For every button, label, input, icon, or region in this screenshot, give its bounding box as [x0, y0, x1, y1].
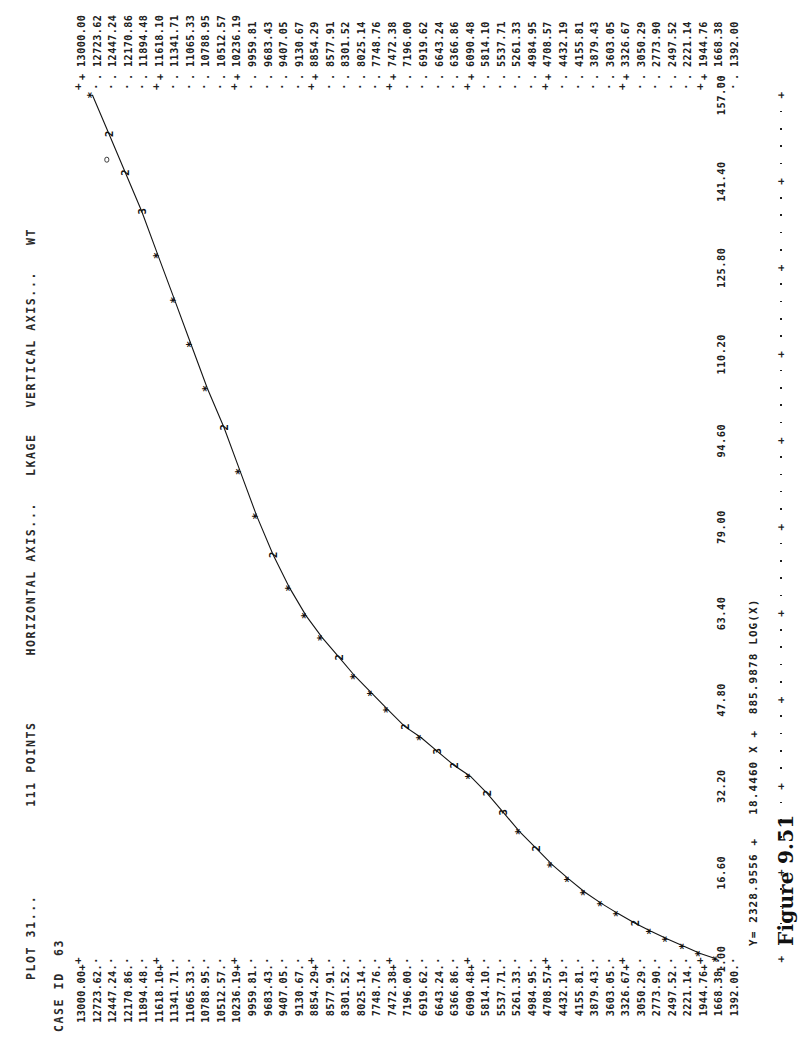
data-point-marker: *	[251, 512, 262, 519]
x-axis-major-tick: +	[775, 782, 786, 791]
y-tick-label: 1668.38.	[711, 964, 727, 1038]
y-tick-label: . 6919.62	[416, 2, 432, 80]
y-tick-label: + 1944.76	[696, 2, 712, 80]
y-tick-label: . 5814.10	[478, 2, 494, 80]
data-point-marker: *	[383, 706, 394, 713]
data-point-marker: *	[580, 889, 591, 896]
y-tick-label: . 10788.95	[198, 2, 214, 80]
data-point-marker: *	[465, 773, 476, 780]
y-tick-label: + 6090.48	[463, 2, 479, 80]
y-tick-label: + 8854.29	[307, 2, 323, 80]
y-tick-label: . 11894.48	[136, 2, 152, 80]
x-axis-major-tick: +	[775, 523, 786, 532]
y-tick-label: 9130.67.	[292, 964, 308, 1038]
y-tick-label: + 3326.67	[618, 2, 634, 80]
y-tick-label: 7748.76.	[369, 964, 385, 1038]
y-tick-label: . 7748.76	[369, 2, 385, 80]
y-tick-label: 10512.57.	[214, 964, 230, 1038]
data-point-marker: *	[235, 468, 246, 475]
x-axis-minor-tick	[780, 508, 782, 510]
y-tick-label: 4984.95.	[525, 964, 541, 1038]
y-tick-label: . 6366.86	[447, 2, 463, 80]
x-tick-label: 94.60	[716, 424, 726, 458]
y-tick-label: . 6643.24	[432, 2, 448, 80]
x-axis-minor-tick	[780, 750, 782, 752]
x-axis-minor-tick	[780, 404, 782, 406]
y-tick-label: 10236.19+	[229, 964, 245, 1038]
data-point-marker: *	[564, 876, 575, 883]
x-tick-label: 63.40	[716, 597, 726, 631]
data-point-marker: 2	[104, 131, 115, 138]
data-point-marker: *	[169, 296, 180, 303]
x-tick-label: 79.00	[716, 510, 726, 544]
x-axis-minor-tick	[780, 318, 782, 320]
y-tick-label: 7196.00.	[400, 964, 416, 1038]
y-tick-label: . 9130.67	[292, 2, 308, 80]
x-tick-label: 1.00	[716, 945, 726, 972]
y-tick-label: 6366.86.	[447, 964, 463, 1038]
y-tick-label: 4708.57+	[540, 964, 556, 1038]
x-axis-major-tick: +	[775, 609, 786, 618]
y-tick-label: . 7196.00	[400, 2, 416, 80]
plot-area: +....+....+....+....+....+....+....+....…	[74, 84, 774, 962]
y-tick-label: 13000.00+	[74, 964, 90, 1038]
x-axis-major-tick: +	[775, 91, 786, 100]
x-axis-labels: 1.0016.6032.2047.8063.4079.0094.60110.20…	[716, 84, 732, 962]
data-point-marker: *	[186, 341, 197, 348]
data-series-layer: *****2*****2*32*23*2***2***2**2****322*	[74, 84, 774, 962]
x-tick-label: 47.80	[716, 683, 726, 717]
data-point-marker: *	[613, 910, 624, 917]
y-tick-label: 8577.91.	[323, 964, 339, 1038]
data-point-marker: 3	[432, 748, 443, 755]
y-tick-label: . 9959.81	[245, 2, 261, 80]
y-tick-label: . 1668.38	[711, 2, 727, 80]
y-tick-label: 6643.24.	[432, 964, 448, 1038]
data-point-marker: *	[87, 91, 98, 98]
x-axis-minor-tick	[780, 664, 782, 666]
y-tick-label: 4432.19.	[556, 964, 572, 1038]
data-point-marker: 2	[449, 762, 460, 769]
x-axis-major-tick: +	[775, 695, 786, 704]
y-tick-label: + 10236.19	[229, 2, 245, 80]
x-axis-minor-tick	[780, 681, 782, 683]
y-tick-label: 4155.81.	[572, 964, 588, 1038]
data-point-marker: 3	[498, 809, 509, 816]
x-axis-minor-tick	[780, 767, 782, 769]
y-tick-label: 9959.81.	[245, 964, 261, 1038]
data-point-marker: *	[301, 612, 312, 619]
data-point-marker: *	[416, 734, 427, 741]
y-axis-labels-right: + 13000.00. 12723.62. 12447.24. 12170.86…	[74, 2, 743, 80]
x-axis-major-tick: +	[775, 263, 786, 272]
y-tick-label: . 3879.43	[587, 2, 603, 80]
y-tick-label: . 4155.81	[572, 2, 588, 80]
y-tick-label: 5261.33.	[509, 964, 525, 1038]
y-tick-label: 2773.90.	[649, 964, 665, 1038]
horizontal-axis-label: HORIZONTAL AXIS...	[26, 502, 38, 655]
x-axis-minor-tick	[780, 802, 782, 804]
data-point-marker: 2	[629, 920, 640, 927]
x-axis-major-tick: +	[775, 955, 786, 964]
x-axis-minor-tick	[780, 629, 782, 631]
data-point-marker: 2	[120, 169, 131, 176]
x-axis-major-tick: +	[775, 177, 786, 186]
x-axis-minor-tick	[780, 370, 782, 372]
data-point-marker: 2	[481, 790, 492, 797]
y-tick-label: + 7472.38	[385, 2, 401, 80]
y-tick-label: . 2497.52	[665, 2, 681, 80]
y-tick-label: 8025.14.	[354, 964, 370, 1038]
x-axis-major-tick: +	[775, 436, 786, 445]
fit-equation: Y= 2328.9556 + 18.4460 X + 885.9878 LOG(…	[748, 598, 759, 946]
y-tick-label: . 4432.19	[556, 2, 572, 80]
data-point-marker: *	[350, 673, 361, 680]
y-tick-label: 1392.00.	[727, 964, 743, 1038]
y-tick-label: 3326.67+	[618, 964, 634, 1038]
y-tick-label: 8854.29+	[307, 964, 323, 1038]
x-axis-minor-tick	[780, 543, 782, 545]
x-tick-label: 110.20	[716, 334, 726, 375]
data-point-marker: *	[547, 861, 558, 868]
x-tick-label: 32.20	[716, 769, 726, 803]
y-tick-label: + 13000.00	[74, 2, 90, 80]
data-point-marker: *	[202, 385, 213, 392]
y-tick-label: . 5261.33	[509, 2, 525, 80]
y-tick-label: . 8577.91	[323, 2, 339, 80]
